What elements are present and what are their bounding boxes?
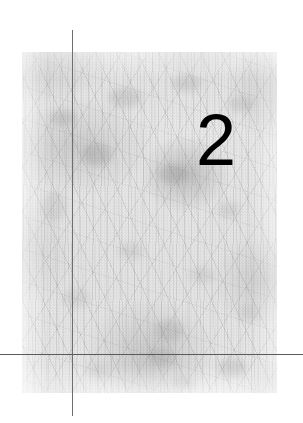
- texture-image-panel: [22, 52, 277, 393]
- chapter-number: 2: [196, 104, 236, 176]
- vertical-rule: [72, 30, 73, 416]
- chapter-opener-page: 2: [0, 0, 303, 423]
- horizontal-rule: [0, 354, 303, 355]
- texture-vignette: [22, 52, 277, 393]
